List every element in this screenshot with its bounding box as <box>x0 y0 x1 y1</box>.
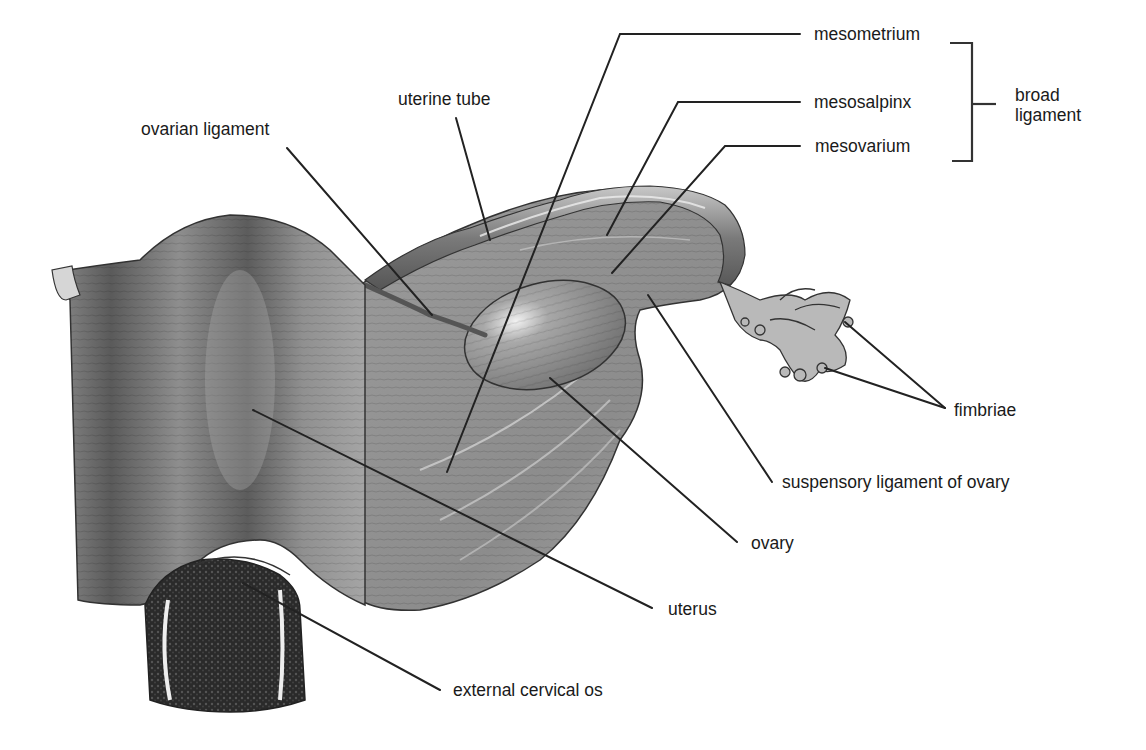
anatomy-diagram <box>0 0 1146 750</box>
leader-uterine-tube <box>456 118 490 240</box>
label-external-cervical-os: external cervical os <box>453 680 603 700</box>
leader-fimbriae-1 <box>845 322 945 408</box>
label-mesometrium: mesometrium <box>814 24 920 44</box>
label-suspensory-ligament: suspensory ligament of ovary <box>782 472 1010 492</box>
label-ovarian-ligament: ovarian ligament <box>141 119 269 139</box>
leader-fimbriae-2 <box>825 368 945 408</box>
uterus-illustration <box>52 215 365 605</box>
label-uterus: uterus <box>668 599 717 619</box>
cervix-illustration <box>145 557 305 712</box>
label-uterine-tube: uterine tube <box>398 89 490 109</box>
label-ovary: ovary <box>751 533 794 553</box>
broad-ligament-bracket <box>950 43 996 161</box>
label-mesovarium: mesovarium <box>815 136 910 156</box>
label-broad-ligament-line1: broad <box>1015 85 1060 105</box>
label-mesosalpinx: mesosalpinx <box>814 92 911 112</box>
label-fimbriae: fimbriae <box>954 400 1016 420</box>
label-broad-ligament-line2: ligament <box>1015 105 1081 125</box>
fimbriae-illustration <box>720 282 853 381</box>
